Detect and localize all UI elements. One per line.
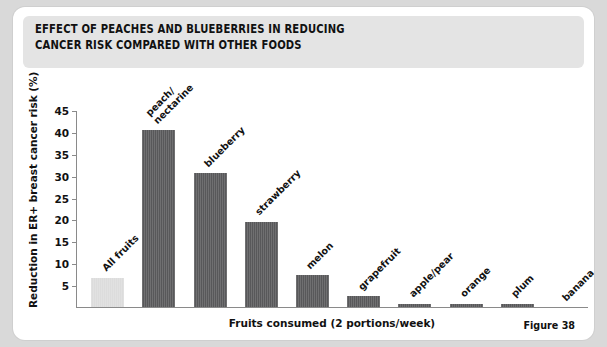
bar[interactable]: All fruits <box>91 278 124 307</box>
bar-category-label: plum <box>510 273 537 300</box>
bar[interactable]: strawberry <box>245 222 278 307</box>
y-tick-label: 35 <box>54 149 69 161</box>
bar-category-label: peach/nectarine <box>144 74 195 125</box>
bar-category-label-line: plum <box>510 273 537 300</box>
y-tick-mark <box>72 242 76 243</box>
y-tick-mark <box>72 177 76 178</box>
bar[interactable]: peach/nectarine <box>142 130 175 307</box>
bar-texture <box>245 222 278 307</box>
y-tick-mark <box>72 286 76 287</box>
y-axis-title: Reduction in ER+ breast cancer risk (%) <box>27 111 41 308</box>
bar-category-label-line: strawberry <box>254 168 303 217</box>
bar-category-label-line: blueberry <box>203 125 248 170</box>
bar-texture <box>142 130 175 307</box>
bar-texture <box>91 278 124 307</box>
bar-texture <box>501 304 534 308</box>
figure-card: EFFECT OF PEACHES AND BLUEBERRIES IN RED… <box>13 7 594 340</box>
bar-category-label: strawberry <box>254 168 303 217</box>
y-tick-mark <box>72 111 76 112</box>
page-root: EFFECT OF PEACHES AND BLUEBERRIES IN RED… <box>0 0 607 347</box>
bar-category-label-line: grapefruit <box>356 246 402 292</box>
bar[interactable]: apple/pear <box>398 304 431 307</box>
bar-texture <box>347 296 380 307</box>
bar-texture <box>194 173 227 307</box>
y-tick-label: 20 <box>54 214 69 226</box>
bar[interactable]: orange <box>450 304 483 307</box>
bar[interactable]: plum <box>501 304 534 308</box>
x-axis-title: Fruits consumed (2 portions/week) <box>76 317 588 329</box>
y-tick-label: 5 <box>62 280 69 292</box>
y-tick-mark <box>72 133 76 134</box>
y-tick-mark <box>72 220 76 221</box>
x-axis-line <box>76 307 588 308</box>
bar-category-label: orange <box>459 266 493 300</box>
y-tick-mark <box>72 199 76 200</box>
y-tick-label: 25 <box>54 193 69 205</box>
y-tick-label: 40 <box>54 127 69 139</box>
page-title-line-1: EFFECT OF PEACHES AND BLUEBERRIES IN RED… <box>35 21 503 37</box>
bar-category-label-line: melon <box>305 240 336 271</box>
bar-texture <box>296 275 329 307</box>
bar-texture <box>398 304 431 307</box>
bar-category-label-line: banana <box>561 267 594 303</box>
bar-chart: Reduction in ER+ breast cancer risk (%) … <box>13 69 594 340</box>
y-tick-label: 10 <box>54 258 69 270</box>
bar-category-label: grapefruit <box>356 246 402 292</box>
y-tick-label: 15 <box>54 236 69 248</box>
bar-category-label: All fruits <box>100 233 140 273</box>
bar-category-label: apple/pear <box>407 251 456 300</box>
y-tick-label: 30 <box>54 171 69 183</box>
page-title-line-2: CANCER RISK COMPARED WITH OTHER FOODS <box>35 37 503 53</box>
bar-category-label-line: orange <box>459 266 493 300</box>
page-title: EFFECT OF PEACHES AND BLUEBERRIES IN RED… <box>35 21 503 53</box>
y-tick-mark <box>72 155 76 156</box>
bar-category-label: banana <box>561 267 594 303</box>
figure-caption: Figure 38 <box>524 320 575 331</box>
bar[interactable]: blueberry <box>194 173 227 307</box>
bar-texture <box>450 304 483 307</box>
y-tick-mark <box>72 264 76 265</box>
bar-category-label: blueberry <box>203 125 248 170</box>
bar[interactable]: melon <box>296 275 329 307</box>
plot-area: 51015202530354045 All fruitspeach/nectar… <box>76 111 588 308</box>
bar-category-label-line: All fruits <box>100 233 140 273</box>
bar-category-label: melon <box>305 240 336 271</box>
bar[interactable]: grapefruit <box>347 296 380 307</box>
y-axis-line <box>76 111 77 308</box>
bar-category-label-line: apple/pear <box>407 251 456 300</box>
y-tick-label: 45 <box>54 105 69 117</box>
